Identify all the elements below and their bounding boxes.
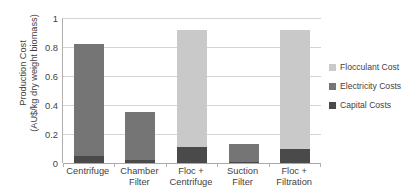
x-tick-label-line: Floc + <box>263 166 325 177</box>
bar-segment-capital-costs <box>280 149 310 164</box>
bar-segment-electricity-costs <box>125 112 155 160</box>
legend-item-label: Capital Costs <box>340 100 391 110</box>
legend-item-capital-costs[interactable]: Capital Costs <box>329 100 401 110</box>
y-axis-title-line-1: Production Cost <box>18 40 29 105</box>
legend-item-electricity-costs[interactable]: Electricity Costs <box>329 81 401 91</box>
y-tick-label-0.2: 0.2 <box>30 129 58 140</box>
bar-group-chamber-filter <box>115 18 167 163</box>
bar-segment-flocculant-cost <box>177 30 207 147</box>
y-tick-label-0.8: 0.8 <box>30 42 58 53</box>
y-tick-label-0.6: 0.6 <box>30 71 58 82</box>
production-cost-stacked-bar-chart: Production Cost (AU$/kg dry weight bioma… <box>0 0 410 192</box>
x-tick-label-floc-filtration: Floc + Filtration <box>263 166 325 189</box>
bar-segment-electricity-costs <box>74 44 104 156</box>
x-tick-label-line: Filtration <box>263 177 325 188</box>
bar-stack[interactable] <box>229 144 259 163</box>
x-axis-tick-labels: Centrifuge Chamber Filter Floc + Centrif… <box>62 166 320 192</box>
legend-swatch-icon <box>329 102 336 109</box>
bars-layer <box>63 18 321 163</box>
bar-segment-capital-costs <box>177 147 207 163</box>
bar-group-floc-centrifuge <box>166 18 218 163</box>
bar-group-floc-filtration <box>269 18 321 163</box>
y-tick-label-1: 1 <box>30 13 58 24</box>
legend-swatch-icon <box>329 64 336 71</box>
bar-group-centrifuge <box>63 18 115 163</box>
plot-area <box>62 18 321 163</box>
bar-segment-capital-costs <box>229 162 259 163</box>
bar-stack[interactable] <box>125 112 155 163</box>
bar-segment-flocculant-cost <box>280 30 310 149</box>
legend: Flocculant Cost Electricity Costs Capita… <box>329 62 401 110</box>
legend-item-label: Flocculant Cost <box>340 62 399 72</box>
bar-stack[interactable] <box>177 30 207 163</box>
bar-segment-electricity-costs <box>229 144 259 161</box>
bar-stack[interactable] <box>280 30 310 163</box>
y-tick-label-0: 0 <box>30 158 58 169</box>
bar-segment-capital-costs <box>74 156 104 163</box>
bar-stack[interactable] <box>74 44 104 163</box>
bar-segment-capital-costs <box>125 160 155 163</box>
x-axis-line <box>63 163 321 164</box>
y-tick-label-0.4: 0.4 <box>30 100 58 111</box>
legend-item-label: Electricity Costs <box>340 81 401 91</box>
legend-item-flocculant-cost[interactable]: Flocculant Cost <box>329 62 401 72</box>
bar-group-suction-filter <box>218 18 270 163</box>
legend-swatch-icon <box>329 83 336 90</box>
y-axis-tick-labels: 1 0.8 0.6 0.4 0.2 0 <box>30 12 58 169</box>
